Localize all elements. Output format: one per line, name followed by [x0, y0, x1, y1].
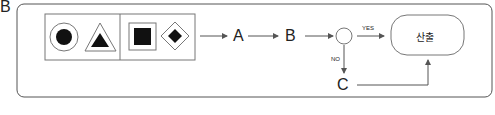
no-label: NO [331, 56, 340, 62]
node-c-label: C [337, 76, 349, 94]
yes-label: YES [362, 25, 374, 31]
diamond-shape-icon [161, 22, 189, 50]
decision-node [336, 28, 352, 44]
triangle-shape-icon [85, 23, 116, 51]
output-label: 산출 [416, 29, 434, 44]
figure-label: B [0, 0, 11, 16]
flow-diagram [0, 0, 495, 115]
circle-shape-icon [50, 23, 78, 51]
node-a-label: A [233, 27, 244, 45]
square-shape-icon [129, 23, 156, 50]
node-b-label: B [285, 27, 296, 45]
arrow-c-to-output [357, 60, 428, 85]
